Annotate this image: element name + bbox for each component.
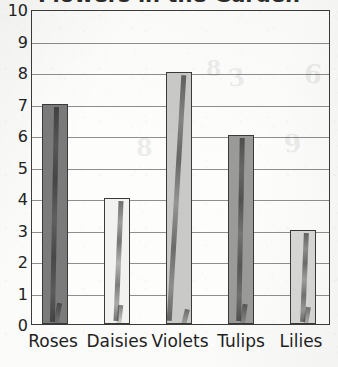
y-tick-3: 3 xyxy=(2,222,28,241)
x-label-tulips: Tulips xyxy=(211,331,271,351)
bar-violets xyxy=(166,72,192,324)
y-tick-6: 6 xyxy=(2,127,28,146)
y-tick-7: 7 xyxy=(2,96,28,115)
pencil-stroke-tail xyxy=(179,309,190,324)
pencil-stroke-tail xyxy=(116,305,123,324)
bar-chart-page: Flowers in the Garden 3 6 8 9 3 8 xyxy=(0,0,338,367)
bar-roses xyxy=(42,104,68,325)
x-label-violets: Violets xyxy=(147,331,213,351)
x-axis: Roses Daisies Violets Tulips Lilies xyxy=(0,331,338,361)
y-tick-10: 10 xyxy=(2,1,28,20)
y-tick-1: 1 xyxy=(2,285,28,304)
pencil-stroke xyxy=(113,201,123,321)
x-label-roses: Roses xyxy=(20,331,86,351)
pencil-stroke xyxy=(236,138,245,321)
y-tick-4: 4 xyxy=(2,190,28,209)
x-label-daisies: Daisies xyxy=(82,331,152,351)
bar-series xyxy=(32,11,329,324)
y-axis: 10 9 8 7 6 5 4 3 2 1 0 xyxy=(0,0,28,367)
y-tick-2: 2 xyxy=(2,253,28,272)
y-tick-9: 9 xyxy=(2,33,28,52)
pencil-stroke xyxy=(167,75,187,321)
plot-area: 3 6 8 9 3 8 xyxy=(31,10,330,325)
chart-title-text: Flowers in the Garden xyxy=(38,0,300,7)
bar-daisies xyxy=(104,198,130,324)
x-label-lilies: Lilies xyxy=(272,331,330,351)
y-tick-5: 5 xyxy=(2,159,28,178)
pencil-stroke xyxy=(50,106,59,321)
y-tick-8: 8 xyxy=(2,64,28,83)
bar-lilies xyxy=(290,230,316,325)
bar-tulips xyxy=(228,135,254,324)
chart-title-cropped: Flowers in the Garden xyxy=(0,0,338,9)
